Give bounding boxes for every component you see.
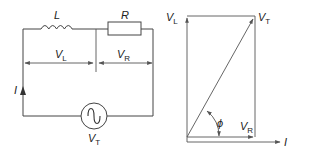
current-phasor-label: I xyxy=(284,136,287,148)
vl-phasor-label: VL xyxy=(166,11,178,26)
source-label: VT xyxy=(88,132,100,147)
vt-phasor-label: VT xyxy=(258,11,270,26)
current-arrow-icon xyxy=(20,86,26,95)
vr-label: VR xyxy=(117,48,130,63)
inductor-label: L xyxy=(54,9,60,21)
phasor-diagram: VL VT VR ϕ I xyxy=(166,11,287,148)
diagram-canvas: L R VL VR I VT VL VT xyxy=(0,0,310,153)
current-label: I xyxy=(14,84,17,96)
resistor-symbol xyxy=(108,22,141,35)
resistor-label: R xyxy=(121,9,129,21)
vl-label: VL xyxy=(55,48,67,63)
rl-circuit: L R VL VR I VT xyxy=(14,9,153,147)
phase-angle-label: ϕ xyxy=(217,117,223,129)
vr-phasor-label: VR xyxy=(240,120,253,135)
inductor-symbol xyxy=(41,26,72,30)
